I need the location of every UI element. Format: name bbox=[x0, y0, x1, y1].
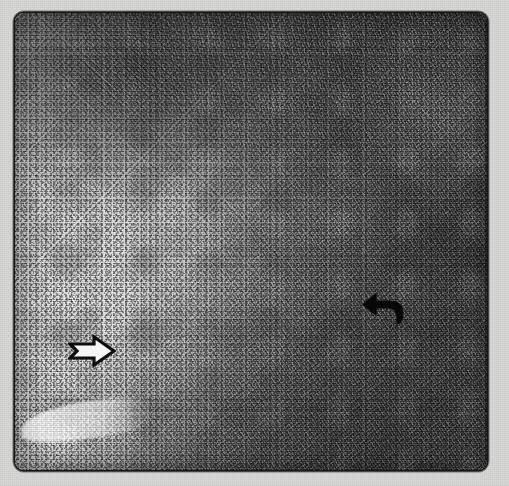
micrograph-image bbox=[15, 13, 487, 470]
arrow-curved-left-icon bbox=[362, 292, 406, 326]
image-vignette bbox=[15, 13, 487, 470]
arrow-open-right-icon bbox=[68, 334, 116, 368]
figure-root bbox=[0, 0, 509, 486]
